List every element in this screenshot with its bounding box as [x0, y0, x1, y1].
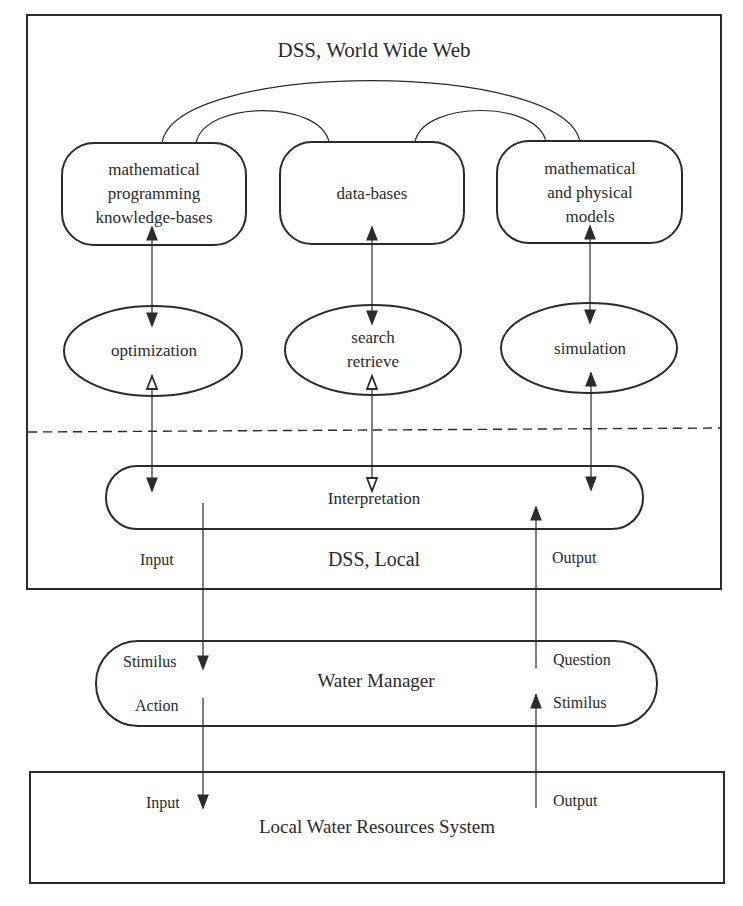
interpretation-label: Interpretation: [328, 489, 421, 509]
dss-web-title: DSS, World Wide Web: [278, 38, 471, 62]
text-line: simulation: [554, 337, 626, 361]
arc-databases-mathphys: [415, 111, 546, 143]
box-math-programming-label: mathematical programming knowledge-bases: [95, 158, 212, 230]
arrowhead-up-output: [531, 507, 541, 520]
local-system-output-label: Output: [553, 792, 597, 810]
arrowhead-hollow-optimization: [147, 376, 157, 389]
manager-action-label: Action: [135, 697, 179, 715]
arrowhead-down-interp-left: [147, 478, 157, 491]
box-math-physical-label: mathematical and physical models: [544, 157, 636, 229]
local-system-title: Local Water Resources System: [259, 816, 495, 838]
arrowhead-down-input: [198, 795, 208, 808]
diagram-canvas: [0, 0, 743, 906]
arrowhead-down-simulation: [585, 310, 595, 323]
dss-local-title: DSS, Local: [328, 548, 420, 571]
arrowhead-down-stimilus: [198, 656, 208, 669]
arrowhead-up-databases: [367, 227, 377, 240]
arrowhead-down-optimization: [147, 313, 157, 326]
dss-local-input-label: Input: [140, 551, 174, 569]
ellipse-search-label: search retrieve: [347, 326, 399, 374]
text-line: knowledge-bases: [95, 206, 212, 230]
arrowhead-down-interp-right: [586, 477, 596, 490]
water-manager-title: Water Manager: [317, 670, 434, 692]
ellipse-simulation-label: simulation: [554, 337, 626, 361]
text-line: mathematical: [95, 158, 212, 182]
text-line: retrieve: [347, 350, 399, 374]
text-line: programming: [95, 182, 212, 206]
arrowhead-up-stimilus: [531, 695, 541, 708]
arrowhead-down-search: [367, 311, 377, 324]
arrowhead-hollow-search: [367, 376, 377, 389]
manager-question-label: Question: [553, 651, 611, 669]
web-local-separator: [28, 428, 720, 432]
local-system-input-label: Input: [146, 794, 180, 812]
box-databases-label: data-bases: [337, 182, 408, 206]
ellipse-optimization-label: optimization: [111, 339, 197, 363]
text-line: and physical: [544, 181, 636, 205]
text-line: data-bases: [337, 182, 408, 206]
text-line: models: [544, 205, 636, 229]
text-line: optimization: [111, 339, 197, 363]
arrowhead-up-simulation: [586, 373, 596, 386]
arc-mathprog-databases: [196, 111, 329, 143]
manager-stimilus-in-label: Stimilus: [123, 653, 176, 671]
text-line: search: [347, 326, 399, 350]
dss-local-output-label: Output: [552, 549, 596, 567]
manager-stimilus-out-label: Stimilus: [553, 694, 606, 712]
arc-mathprog-mathphys: [162, 81, 580, 143]
text-line: mathematical: [544, 157, 636, 181]
